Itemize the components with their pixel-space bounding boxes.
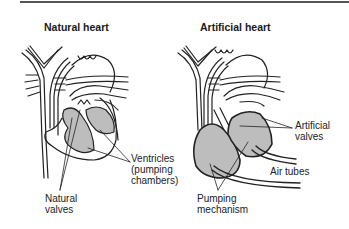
ventricles-label: Ventricles (pumping chambers) — [131, 153, 178, 186]
air-tubes-label: Air tubes — [270, 166, 309, 177]
natural-valve-marks — [78, 100, 90, 104]
artificial-valves-label: Artificial valves — [295, 120, 330, 142]
artificial-heart-illustration — [178, 46, 284, 130]
natural-valves-label: Natural valves — [45, 193, 77, 215]
pumping-mechanism-label: Pumping mechanism — [197, 193, 248, 215]
artificial-pumping-chambers — [194, 112, 272, 178]
